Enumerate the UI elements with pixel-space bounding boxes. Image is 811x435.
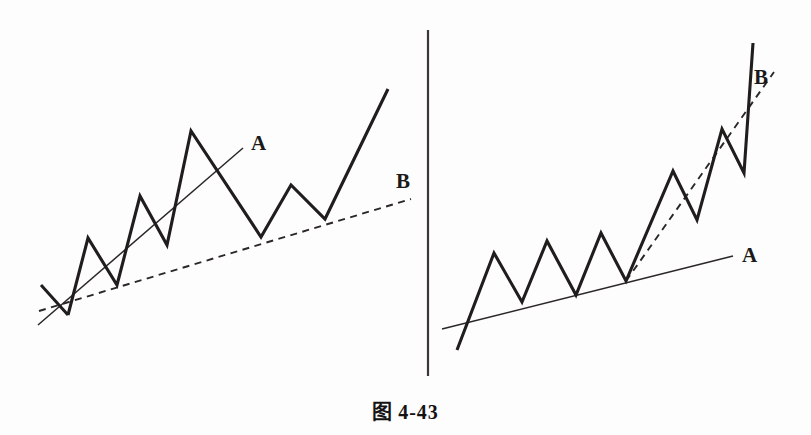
right-label-a: A xyxy=(742,243,758,267)
left-price-path xyxy=(68,89,388,315)
figure-container: A B A B 图4-43 xyxy=(0,0,811,435)
right-price-path xyxy=(457,43,753,350)
left-panel: A B xyxy=(38,89,411,325)
left-label-a: A xyxy=(251,131,267,155)
caption-number: 4-43 xyxy=(398,401,439,423)
right-panel: A B xyxy=(442,43,774,350)
left-label-b: B xyxy=(396,169,410,193)
caption-label: 图 xyxy=(372,401,393,423)
left-trendline-a xyxy=(38,148,243,325)
figure-caption: 图4-43 xyxy=(0,396,811,425)
diagram-canvas: A B A B xyxy=(0,0,811,435)
left-trendline-b xyxy=(39,199,411,311)
right-label-b: B xyxy=(754,65,768,89)
